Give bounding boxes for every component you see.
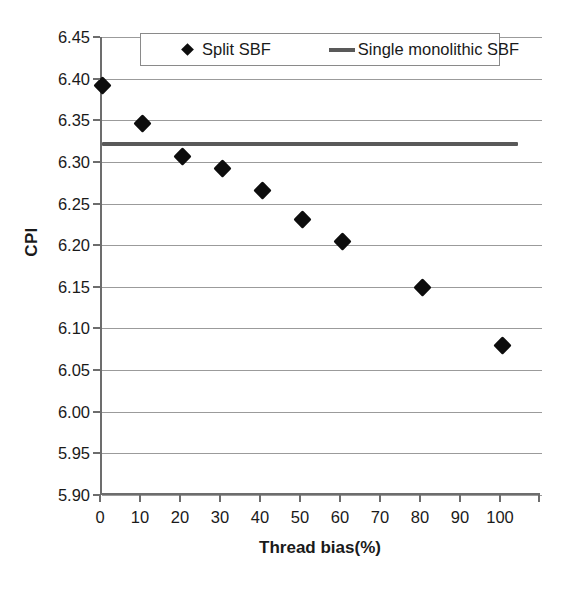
- data-point-marker: [333, 233, 351, 251]
- x-tick-label: 100: [478, 509, 522, 526]
- legend-label-single-monolithic-sbf: Single monolithic SBF: [358, 41, 519, 58]
- x-tick-mark: [179, 495, 181, 502]
- cpi-vs-thread-bias-chart: CPI Thread bias(%) 5.905.956.006.056.106…: [0, 0, 567, 589]
- y-tick-label: 6.30: [32, 154, 90, 171]
- legend-label-split-sbf: Split SBF: [202, 41, 271, 58]
- gridline: [102, 453, 542, 454]
- y-tick-label: 6.35: [32, 112, 90, 129]
- monolithic-sbf-line: [102, 142, 518, 146]
- x-tick-label: 60: [318, 509, 362, 526]
- diamond-marker-icon: [181, 43, 194, 56]
- legend-item-split-sbf: Split SBF: [183, 41, 271, 58]
- data-point-marker: [293, 210, 311, 228]
- x-tick-label: 50: [278, 509, 322, 526]
- y-tick-mark: [93, 36, 100, 38]
- gridline: [102, 120, 542, 121]
- y-tick-mark: [93, 203, 100, 205]
- line-marker-icon: [329, 48, 355, 52]
- gridline: [102, 79, 542, 80]
- x-tick-mark: [99, 495, 101, 502]
- x-tick-mark: [459, 495, 461, 502]
- y-tick-label: 6.10: [32, 320, 90, 337]
- y-tick-mark: [93, 161, 100, 163]
- x-tick-label: 40: [238, 509, 282, 526]
- x-tick-label: 80: [398, 509, 442, 526]
- y-tick-mark: [93, 369, 100, 371]
- x-tick-label: 10: [118, 509, 162, 526]
- gridline: [102, 287, 542, 288]
- x-tick-label: 30: [198, 509, 242, 526]
- x-tick-label: 70: [358, 509, 402, 526]
- y-tick-label: 6.25: [32, 196, 90, 213]
- gridline: [102, 412, 542, 413]
- data-point-marker: [413, 278, 431, 296]
- x-axis-title: Thread bias(%): [100, 538, 540, 558]
- y-tick-mark: [93, 78, 100, 80]
- y-tick-mark: [93, 244, 100, 246]
- y-tick-label: 6.15: [32, 279, 90, 296]
- x-tick-mark: [299, 495, 301, 502]
- x-tick-mark: [499, 495, 501, 502]
- x-tick-mark: [379, 495, 381, 502]
- x-tick-mark: [538, 495, 540, 502]
- legend-item-single-monolithic-sbf: Single monolithic SBF: [329, 41, 519, 58]
- y-tick-mark: [93, 411, 100, 413]
- y-tick-label: 6.05: [32, 362, 90, 379]
- gridline: [102, 495, 542, 496]
- x-tick-label: 90: [438, 509, 482, 526]
- x-tick-mark: [139, 495, 141, 502]
- y-tick-mark: [93, 327, 100, 329]
- gridline: [102, 162, 542, 163]
- y-tick-label: 6.40: [32, 71, 90, 88]
- gridline: [102, 245, 542, 246]
- x-tick-mark: [339, 495, 341, 502]
- y-tick-mark: [93, 119, 100, 121]
- y-tick-mark: [93, 452, 100, 454]
- gridline: [102, 204, 542, 205]
- data-point-marker: [133, 114, 151, 132]
- y-tick-label: 5.90: [32, 487, 90, 504]
- x-tick-label: 0: [78, 509, 122, 526]
- y-tick-label: 6.00: [32, 404, 90, 421]
- x-tick-mark: [259, 495, 261, 502]
- x-tick-label: 20: [158, 509, 202, 526]
- y-tick-label: 6.45: [32, 29, 90, 46]
- x-tick-mark: [419, 495, 421, 502]
- y-tick-mark: [93, 286, 100, 288]
- plot-area: [100, 37, 540, 495]
- chart-legend: Split SBF Single monolithic SBF: [140, 33, 500, 66]
- y-tick-label: 5.95: [32, 445, 90, 462]
- data-point-marker: [253, 181, 271, 199]
- gridline: [102, 328, 542, 329]
- y-tick-label: 6.20: [32, 237, 90, 254]
- gridline: [102, 370, 542, 371]
- data-point-marker: [493, 336, 511, 354]
- x-tick-mark: [219, 495, 221, 502]
